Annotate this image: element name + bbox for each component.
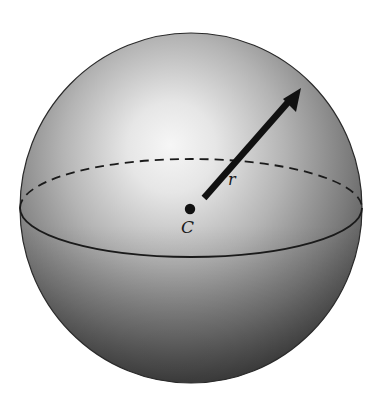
center-point xyxy=(185,204,195,214)
center-label: C xyxy=(181,217,194,237)
sphere-diagram: C r xyxy=(0,0,380,403)
radius-label: r xyxy=(228,170,237,189)
